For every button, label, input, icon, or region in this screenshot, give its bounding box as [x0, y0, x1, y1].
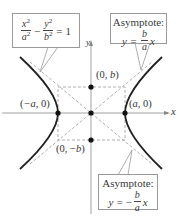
label-left-vertex: (−a, 0) — [20, 99, 50, 110]
equation-callout-box: x2 a2 − y2 b2 = 1 — [12, 13, 80, 48]
hyperbola-equation: x2 a2 − y2 b2 = 1 — [13, 14, 79, 47]
equation-equals: = — [56, 25, 62, 37]
equation-term1: x2 a2 — [21, 19, 31, 42]
equation-operator: − — [34, 25, 40, 37]
point-co-vertex-top — [88, 84, 93, 89]
asymptote-positive-title: Asymptote: — [111, 16, 166, 28]
equation-callout-pointer — [40, 47, 58, 72]
equation-rhs: 1 — [65, 25, 71, 37]
asymptote-negative-callout-box: Asymptote: y = − ba x — [98, 174, 158, 210]
asymptote-negative-equation: y = − ba x — [99, 190, 157, 213]
asymptote-positive-callout-box: Asymptote: y = ba x — [110, 13, 167, 44]
point-co-vertex-bottom — [88, 137, 93, 142]
equation-term2: y2 b2 — [43, 19, 53, 42]
asymptote-negative-title: Asymptote: — [99, 177, 157, 189]
x-axis-label: x — [171, 107, 176, 118]
point-center — [88, 110, 93, 115]
point-right-vertex — [122, 110, 127, 115]
x-axis-arrow-icon — [164, 111, 170, 115]
asymptote-neg-callout-pointer — [118, 150, 132, 175]
label-co-vertex-bottom: (0, −b) — [56, 144, 85, 155]
label-co-vertex-top: (0, b) — [96, 70, 119, 81]
label-right-vertex: (a, 0) — [129, 99, 152, 110]
y-axis-label: y — [86, 38, 90, 47]
point-left-vertex — [55, 110, 60, 115]
asymptote-positive-equation: y = ba x — [111, 29, 166, 52]
